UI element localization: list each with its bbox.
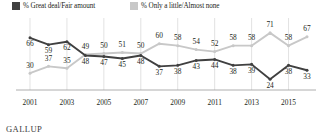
data-point-marker [232,44,235,47]
data-value-label: 50 [137,42,144,50]
x-axis-tick-labels: 20012003200520072009201120132015 [0,98,329,112]
x-axis-tick-label: 2015 [281,98,296,107]
data-value-label: 71 [266,21,273,29]
data-point-marker [158,42,161,45]
legend-item-only-a-little-almost-none: % Only a little/Almost none [130,2,219,10]
data-point-marker [269,31,272,34]
data-value-label: 30 [26,62,33,70]
data-point-marker [29,72,32,75]
data-value-label: 58 [174,34,181,42]
x-axis-tick-label: 2005 [97,98,112,107]
data-value-label: 58 [285,34,292,42]
data-point-marker [213,50,216,53]
data-value-label: 43 [192,63,199,71]
data-point-marker [65,67,68,70]
data-point-marker [102,52,105,55]
data-value-label: 38 [174,68,181,76]
data-value-label: 37 [45,55,52,63]
x-axis-tick-label: 2009 [170,98,185,107]
data-value-label: 51 [119,41,126,49]
data-value-label: 24 [266,82,273,90]
data-value-label: 60 [156,32,163,40]
x-axis-tick-label: 2007 [133,98,148,107]
legend-item-label: % Only a little/Almost none [141,2,219,10]
square-swatch-dark-icon [12,2,20,10]
data-value-label: 58 [229,34,236,42]
data-point-marker [287,44,290,47]
data-value-label: 50 [100,42,107,50]
data-value-label: 58 [248,34,255,42]
data-value-label: 45 [119,61,126,69]
data-value-label: 52 [211,40,218,48]
footer: GALLUP [6,118,42,136]
data-value-label: 37 [156,69,163,77]
data-point-marker [121,51,124,54]
gridlines [30,18,289,90]
data-value-label: 49 [82,43,89,51]
data-value-label: 35 [63,57,70,65]
data-point-marker [47,65,50,68]
series-line-only-a-little-almost-none [29,31,309,74]
data-point-marker [250,44,253,47]
data-point-marker [195,48,198,51]
data-value-label: 39 [248,67,255,75]
x-axis-tick-label: 2003 [60,98,75,107]
data-value-label: 48 [82,58,89,66]
data-value-label: 67 [303,25,310,33]
data-value-label: 33 [303,73,310,81]
data-value-label: 66 [26,40,33,48]
x-axis-tick-label: 2001 [23,98,38,107]
data-point-marker [176,44,179,47]
data-value-label: 44 [211,62,218,70]
data-value-label: 48 [137,58,144,66]
gallup-line-chart: % Great deal/Fair amount % Only a little… [0,0,329,139]
data-point-marker [306,35,309,38]
x-axis-tick-label: 2011 [207,98,222,107]
series-path [30,33,307,73]
square-swatch-light-icon [130,2,138,10]
data-value-label: 38 [285,68,292,76]
data-value-label: 38 [229,68,236,76]
chart-legend: % Great deal/Fair amount % Only a little… [0,2,329,16]
data-value-label: 47 [100,59,107,67]
legend-item-label: % Great deal/Fair amount [23,2,95,10]
data-value-label: 54 [192,38,199,46]
gallup-logo: GALLUP [6,124,42,134]
x-axis-tick-label: 2013 [244,98,259,107]
legend-item-great-deal-fair-amount: % Great deal/Fair amount [12,2,95,10]
data-value-label: 62 [63,44,70,52]
